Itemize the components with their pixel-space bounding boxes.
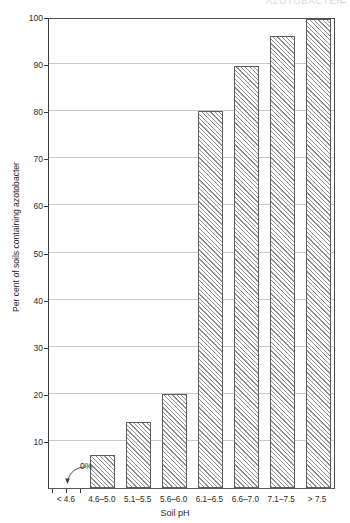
y-tick-label: 20 <box>21 390 43 400</box>
running-head: AZOTOBACTER <box>266 0 344 4</box>
y-axis-title: Per cent of soils containing azotobacter <box>11 117 21 357</box>
chart-figure: AZOTOBACTER 102030405060708090100 < 4.64… <box>0 0 350 523</box>
bar <box>198 111 223 488</box>
y-tick-label: 80 <box>21 107 43 117</box>
running-head-rule <box>340 2 346 3</box>
bar-series <box>49 19 334 488</box>
x-axis-title: Soil pH <box>0 508 350 518</box>
bar <box>234 66 259 488</box>
y-tick-label: 60 <box>21 201 43 211</box>
plot-area <box>48 18 335 489</box>
x-tick-mark <box>66 489 67 493</box>
bar <box>306 19 331 488</box>
y-tick-label: 30 <box>21 343 43 353</box>
bar <box>126 422 151 488</box>
y-tick-label: 10 <box>21 437 43 447</box>
y-tick-label: 100 <box>21 13 43 23</box>
x-tick-mark <box>52 489 53 493</box>
y-tick-label: 40 <box>21 296 43 306</box>
bar <box>162 394 187 488</box>
zero-percent-annotation-arrow <box>54 462 94 488</box>
x-tick-label: > 7.5 <box>293 495 341 504</box>
y-tick-label: 50 <box>21 249 43 259</box>
bar <box>270 36 295 488</box>
y-tick-label: 70 <box>21 154 43 164</box>
x-tick-mark <box>80 489 81 493</box>
bar <box>90 455 115 488</box>
y-tick-label: 90 <box>21 60 43 70</box>
